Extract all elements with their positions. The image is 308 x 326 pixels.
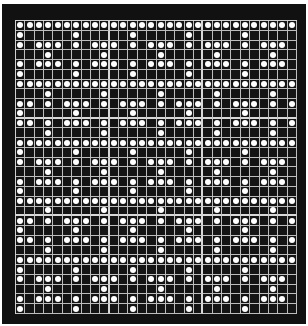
grid-cell [260, 50, 269, 60]
grid-cell [44, 197, 53, 207]
grid-cell [110, 226, 119, 236]
grid-cell [241, 99, 250, 109]
dot-marker [186, 296, 192, 302]
grid-cell [269, 304, 278, 314]
grid-cell [147, 275, 156, 285]
grid-cell [128, 60, 137, 70]
grid-cell [222, 207, 231, 217]
grid-cell [53, 31, 62, 41]
dot-marker [64, 101, 70, 107]
grid-cell [222, 275, 231, 285]
dot-marker [92, 42, 98, 48]
dot-marker [167, 42, 173, 48]
grid-cell [100, 158, 109, 168]
dot-marker [205, 42, 211, 48]
grid-cell [166, 275, 175, 285]
grid-cell [128, 285, 137, 295]
grid-cell [278, 80, 287, 90]
grid-cell [110, 246, 119, 256]
dot-marker [120, 120, 126, 126]
dot-marker [130, 218, 136, 224]
grid-cell [231, 80, 240, 90]
dot-marker [45, 130, 51, 136]
grid-cell [222, 41, 231, 51]
dot-marker [261, 159, 267, 165]
dot-marker [73, 306, 79, 312]
grid-cell [16, 31, 25, 41]
dot-marker [261, 140, 267, 146]
grid-cell [128, 50, 137, 60]
grid-cell [100, 197, 109, 207]
dot-marker [73, 257, 79, 263]
grid-cell [203, 148, 212, 158]
grid-cell [241, 119, 250, 129]
grid-cell [250, 50, 259, 60]
grid-cell [91, 226, 100, 236]
grid-cell [269, 236, 278, 246]
grid-cell [222, 89, 231, 99]
dot-marker [214, 218, 220, 224]
grid-cell [157, 70, 166, 80]
grid-cell [100, 187, 109, 197]
dot-marker [45, 257, 51, 263]
dot-marker [73, 32, 79, 38]
grid-cell [157, 50, 166, 60]
grid-cell [194, 128, 203, 138]
grid-cell [16, 275, 25, 285]
dot-marker [158, 159, 164, 165]
grid-cell [44, 138, 53, 148]
grid-cell [110, 41, 119, 51]
grid-cell [203, 167, 212, 177]
grid-cell [110, 236, 119, 246]
grid-cell [260, 70, 269, 80]
grid-cell [203, 265, 212, 275]
dot-marker [92, 81, 98, 87]
dot-marker [279, 198, 285, 204]
grid-cell [269, 148, 278, 158]
grid-cell [72, 265, 81, 275]
dot-marker [17, 188, 23, 194]
grid-cell [175, 158, 184, 168]
dot-marker [242, 179, 248, 185]
grid-cell [82, 236, 91, 246]
grid-cell [185, 119, 194, 129]
grid-cell [25, 207, 34, 217]
dot-marker [214, 237, 220, 243]
grid-cell [16, 207, 25, 217]
dot-marker [167, 276, 173, 282]
grid-cell [72, 236, 81, 246]
grid-cell [25, 265, 34, 275]
grid-cell [166, 216, 175, 226]
grid-cell [91, 109, 100, 119]
grid-cell [260, 304, 269, 314]
grid-cell [241, 265, 250, 275]
dot-marker [17, 159, 23, 165]
grid-cell [63, 99, 72, 109]
dot-marker [101, 120, 107, 126]
dot-marker [242, 227, 248, 233]
grid-cell [203, 128, 212, 138]
grid-cell [278, 60, 287, 70]
grid-cell [119, 246, 128, 256]
dot-marker [158, 120, 164, 126]
dot-marker [17, 42, 23, 48]
dot-marker [279, 61, 285, 67]
grid-cell [35, 207, 44, 217]
grid-cell [119, 207, 128, 217]
dot-marker [36, 81, 42, 87]
dot-marker [130, 257, 136, 263]
dot-marker [205, 22, 211, 28]
grid-cell [53, 21, 62, 31]
grid-cell [185, 167, 194, 177]
grid-cell [128, 70, 137, 80]
grid-cell [138, 255, 147, 265]
grid-cell [157, 197, 166, 207]
grid-cell [250, 80, 259, 90]
grid-cell [147, 294, 156, 304]
grid-cell [250, 119, 259, 129]
grid-cell [269, 255, 278, 265]
grid-cell [222, 304, 231, 314]
grid-cell [213, 138, 222, 148]
grid-cell [231, 275, 240, 285]
dot-marker [73, 237, 79, 243]
